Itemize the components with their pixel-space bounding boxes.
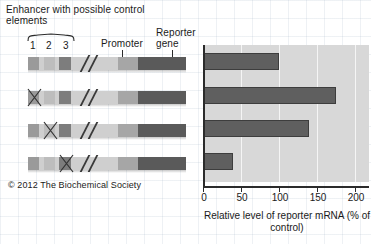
- enhancer-element-3: [59, 124, 71, 137]
- x-tick-label-200: 200: [348, 193, 365, 203]
- reporter-gene-label: Reporter gene: [156, 27, 204, 49]
- element-number-2: 2: [46, 41, 52, 51]
- enhancer-label: Enhancer with possible control elements: [6, 4, 186, 26]
- reporter-gene-segment: [138, 124, 186, 137]
- chart-x-axis: [203, 186, 369, 188]
- enhancer-element-1: [28, 57, 39, 70]
- construct-row-element-3-mutated: [28, 157, 186, 170]
- promoter-segment: [118, 91, 138, 104]
- x-tick-label-0: 0: [201, 193, 207, 203]
- x-tick-label-100: 100: [272, 193, 289, 203]
- mutation-x-icon-element-3: [59, 154, 74, 173]
- gridline-150: [317, 45, 318, 182]
- reporter-gene-segment: [138, 57, 186, 70]
- gridline-100: [279, 45, 280, 182]
- chart-y-axis: [203, 45, 205, 188]
- element-number-3: 3: [63, 41, 69, 51]
- mutation-x-icon-element-1: [27, 88, 42, 107]
- reporter-gene-segment: [138, 157, 186, 170]
- enhancer-element-1: [28, 124, 39, 137]
- element-number-1: 1: [30, 41, 36, 51]
- enhancer-element-2: [44, 91, 55, 104]
- enhancer-element-1: [28, 157, 39, 170]
- promoter-label: Promoter: [101, 38, 143, 49]
- enhancer-element-2: [44, 157, 55, 170]
- figure-gene-construct-reporter-assay: Enhancer with possible control elements …: [0, 0, 371, 244]
- gridline-200: [355, 45, 356, 182]
- promoter-segment: [118, 157, 138, 170]
- enhancer-element-3: [59, 91, 71, 104]
- bar-wild-type: [203, 53, 279, 70]
- bar-element-1-mutated: [203, 87, 336, 104]
- x-tick-label-50: 50: [236, 193, 247, 203]
- construct-row-element-1-mutated: [28, 91, 186, 104]
- enhancer-element-2: [44, 57, 55, 70]
- construct-row-element-2-mutated: [28, 124, 186, 137]
- x-tick-label-150: 150: [310, 193, 327, 203]
- bar-chart-plot-area: [203, 45, 369, 182]
- bar-element-3-mutated: [203, 153, 233, 170]
- copyright-notice: © 2012 The Biochemical Society: [8, 180, 141, 190]
- construct-shadow: [28, 170, 186, 173]
- chart-x-axis-title: Relative level of reporter mRNA (% of co…: [203, 210, 371, 234]
- reporter-gene-segment: [138, 91, 186, 104]
- construct-shadow: [28, 104, 186, 107]
- construct-shadow: [28, 70, 186, 73]
- promoter-segment: [118, 124, 138, 137]
- bar-element-2-mutated: [203, 120, 309, 137]
- enhancer-element-3: [59, 57, 71, 70]
- mutation-x-icon-element-2: [43, 121, 58, 140]
- promoter-segment: [118, 57, 138, 70]
- construct-row-wild-type: [28, 57, 186, 70]
